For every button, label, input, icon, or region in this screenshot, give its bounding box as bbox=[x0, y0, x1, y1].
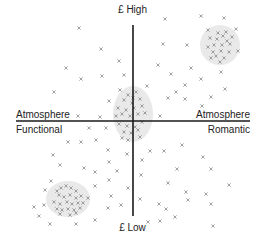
cross-marker-icon bbox=[219, 70, 222, 73]
cross-marker-icon bbox=[93, 170, 96, 173]
cross-marker-icon bbox=[109, 194, 112, 197]
cross-marker-icon bbox=[140, 158, 143, 161]
cross-marker-icon bbox=[209, 95, 212, 98]
cross-marker-icon bbox=[119, 203, 122, 206]
cross-marker-icon bbox=[42, 203, 45, 206]
cross-marker-icon bbox=[58, 163, 61, 166]
cross-marker-icon bbox=[185, 43, 188, 46]
axis-label-low-price: £ Low bbox=[0, 222, 265, 233]
cross-marker-icon bbox=[200, 104, 203, 107]
cross-marker-icon bbox=[161, 42, 164, 45]
cross-marker-icon bbox=[158, 114, 161, 117]
cross-marker-icon bbox=[234, 27, 237, 30]
cross-marker-icon bbox=[94, 138, 97, 141]
cross-marker-icon bbox=[87, 126, 90, 129]
cross-marker-icon bbox=[139, 173, 142, 176]
cross-marker-icon bbox=[174, 90, 177, 93]
cross-marker-icon bbox=[77, 26, 80, 29]
axis-label-left-atmosphere: Atmosphere bbox=[16, 109, 70, 120]
cross-marker-icon bbox=[157, 202, 160, 205]
cross-marker-icon bbox=[189, 66, 192, 69]
cross-marker-icon bbox=[66, 140, 69, 143]
cross-marker-icon bbox=[222, 16, 225, 19]
cross-marker-icon bbox=[118, 88, 121, 91]
cross-marker-icon bbox=[183, 83, 186, 86]
cross-marker-icon bbox=[43, 188, 46, 191]
cross-marker-icon bbox=[138, 197, 141, 200]
cross-marker-icon bbox=[104, 126, 107, 129]
cross-marker-icon bbox=[64, 66, 67, 69]
cross-marker-icon bbox=[107, 99, 110, 102]
cross-marker-icon bbox=[199, 77, 202, 80]
cross-marker-icon bbox=[156, 63, 159, 66]
cross-marker-icon bbox=[184, 190, 187, 193]
cross-marker-icon bbox=[162, 149, 165, 152]
cross-marker-icon bbox=[209, 202, 212, 205]
cross-marker-icon bbox=[79, 77, 82, 80]
axis-label-right-atmosphere: Atmosphere bbox=[196, 109, 250, 120]
cross-marker-icon bbox=[82, 166, 85, 169]
axis-label-functional: Functional bbox=[16, 124, 62, 135]
cross-marker-icon bbox=[122, 73, 125, 76]
cross-marker-icon bbox=[166, 181, 169, 184]
cross-marker-icon bbox=[49, 179, 52, 182]
cross-marker-icon bbox=[169, 72, 172, 75]
cross-marker-icon bbox=[106, 206, 109, 209]
cross-marker-icon bbox=[76, 114, 79, 117]
cross-marker-icon bbox=[180, 143, 183, 146]
cross-marker-icon bbox=[204, 192, 207, 195]
cross-marker-icon bbox=[107, 178, 110, 181]
cross-marker-icon bbox=[163, 17, 166, 20]
cross-marker-icon bbox=[145, 84, 148, 87]
cross-marker-icon bbox=[98, 115, 101, 118]
cross-marker-icon bbox=[125, 152, 128, 155]
axis-label-high-price: £ High bbox=[0, 4, 265, 15]
cross-marker-icon bbox=[93, 184, 96, 187]
cross-marker-icon bbox=[51, 153, 54, 156]
cross-marker-icon bbox=[115, 169, 118, 172]
cross-marker-icon bbox=[106, 148, 109, 151]
cross-marker-icon bbox=[223, 87, 226, 90]
cross-marker-icon bbox=[166, 96, 169, 99]
cross-marker-icon bbox=[99, 47, 102, 50]
cross-marker-icon bbox=[227, 183, 230, 186]
cross-marker-icon bbox=[32, 205, 35, 208]
cross-marker-icon bbox=[164, 207, 167, 210]
cross-marker-icon bbox=[79, 140, 82, 143]
cross-marker-icon bbox=[173, 215, 176, 218]
axis-label-romantic: Romantic bbox=[208, 124, 250, 135]
cross-marker-icon bbox=[201, 155, 204, 158]
cross-marker-icon bbox=[100, 74, 103, 77]
cross-marker-icon bbox=[186, 198, 189, 201]
cross-marker-icon bbox=[209, 167, 212, 170]
cross-marker-icon bbox=[126, 186, 129, 189]
cluster-low-price-functional bbox=[46, 181, 90, 217]
cross-marker-icon bbox=[52, 90, 55, 93]
cross-marker-icon bbox=[117, 59, 120, 62]
cluster-high-price-romantic bbox=[200, 25, 240, 65]
cross-marker-icon bbox=[175, 167, 178, 170]
cross-marker-icon bbox=[107, 160, 110, 163]
cross-marker-icon bbox=[37, 214, 40, 217]
cross-marker-icon bbox=[148, 149, 151, 152]
cross-marker-icon bbox=[183, 97, 186, 100]
